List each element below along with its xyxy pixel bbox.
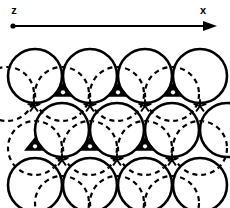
axis-arrowhead-icon	[203, 21, 217, 31]
atom-circle	[8, 158, 62, 208]
axis-origin-dot	[10, 23, 15, 28]
axis-label-z: z	[11, 4, 17, 16]
octahedral-center-dot	[116, 90, 120, 94]
atom-circle	[63, 158, 117, 208]
atom-circle	[118, 158, 172, 208]
octahedral-center-dot	[61, 90, 65, 94]
figure-canvas: zx	[0, 0, 230, 208]
octahedral-center-dot	[88, 144, 92, 148]
close-packing-figure: zx	[0, 0, 230, 208]
axis-group: zx	[10, 4, 217, 31]
atom-circle	[200, 103, 230, 157]
octahedral-center-dot	[171, 90, 175, 94]
atom-circle	[173, 158, 227, 208]
axis-label-x: x	[200, 4, 207, 16]
lattice-group	[0, 49, 230, 208]
octahedral-center-dot	[33, 144, 37, 148]
octahedral-center-dot	[143, 144, 147, 148]
